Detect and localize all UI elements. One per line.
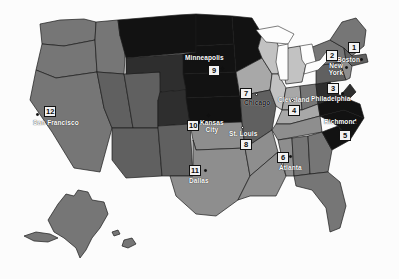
state-arizona xyxy=(112,128,162,178)
state-montana xyxy=(118,14,196,58)
city-label-cleveland: Cleveland xyxy=(278,96,310,103)
marker-number-1[interactable]: 1 xyxy=(348,42,360,53)
city-dot-richmond xyxy=(354,121,357,124)
city-dot-chicago xyxy=(255,93,258,96)
city-dot-kansas-city xyxy=(207,114,210,117)
city-dot-cleveland xyxy=(291,99,294,102)
marker-number-6[interactable]: 6 xyxy=(277,152,289,163)
city-label-chicago: Chicago xyxy=(244,99,270,106)
city-dot-new-york xyxy=(345,66,348,69)
marker-number-11[interactable]: 11 xyxy=(189,165,201,176)
city-dot-san-francisco xyxy=(36,113,39,116)
state-hawaii xyxy=(112,230,120,236)
city-label-dallas: Dallas xyxy=(189,177,209,184)
city-dot-boston xyxy=(360,58,363,61)
city-label-san-francisco: San Francisco xyxy=(33,119,79,126)
state-alaska xyxy=(48,190,108,258)
marker-number-7[interactable]: 7 xyxy=(240,88,252,99)
city-label-kansas-city: Kansas City xyxy=(200,119,224,133)
city-dot-st-louis xyxy=(241,126,244,129)
city-label-atlanta: Atlanta xyxy=(279,164,302,171)
city-label-st-louis: St. Louis xyxy=(229,130,257,137)
city-dot-atlanta xyxy=(289,155,292,158)
marker-number-5[interactable]: 5 xyxy=(339,130,351,141)
marker-number-4[interactable]: 4 xyxy=(288,105,300,116)
state-colorado xyxy=(158,90,190,126)
city-label-philadelphia: Philadelphia xyxy=(311,95,351,102)
marker-number-10[interactable]: 10 xyxy=(187,120,199,131)
city-label-richmond: Richmond xyxy=(324,118,357,125)
marker-number-8[interactable]: 8 xyxy=(240,139,252,150)
city-label-new-york: New York xyxy=(327,62,345,76)
state-florida xyxy=(294,172,346,232)
city-dot-philadelphia xyxy=(341,92,344,95)
city-dot-dallas xyxy=(204,169,207,172)
marker-number-9[interactable]: 9 xyxy=(208,65,220,76)
city-label-minneapolis: Minneapolis xyxy=(185,54,224,61)
state-oregon xyxy=(36,40,97,78)
marker-number-12[interactable]: 12 xyxy=(44,106,56,117)
marker-number-3[interactable]: 3 xyxy=(327,83,339,94)
marker-number-2[interactable]: 2 xyxy=(326,50,338,61)
city-dot-minneapolis xyxy=(221,67,224,70)
alaska-aleutians xyxy=(24,232,58,242)
state-new-mexico xyxy=(158,124,193,176)
state-north-dakota xyxy=(196,14,234,46)
us-map: 1 Boston 2 New York 3 Philadelphia 4 Cle… xyxy=(0,0,399,279)
state-hawaii-big-island xyxy=(122,238,136,248)
